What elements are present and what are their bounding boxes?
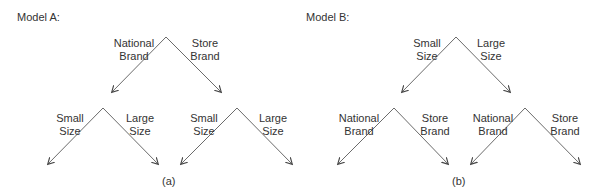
model-b-subleft-left-label: National Brand [331, 112, 387, 138]
model-b-title: Model B: [306, 11, 349, 24]
model-a-top-left-label: National Brand [106, 37, 162, 63]
model-a-top-right-label: Store Brand [185, 37, 225, 63]
model-b-top-right-label: Large Size [471, 37, 511, 63]
model-a-caption: (a) [162, 175, 175, 188]
model-b-caption: (b) [452, 175, 465, 188]
tree-diagram-lines [0, 0, 599, 196]
model-b-subright-left-label: National Brand [465, 112, 521, 138]
model-a-subleft-right-label: Large Size [120, 112, 160, 138]
model-a-subleft-left-label: Small Size [50, 112, 90, 138]
model-a-subright-left-label: Small Size [184, 112, 224, 138]
model-b-top-left-label: Small Size [407, 37, 447, 63]
model-a-title: Model A: [17, 11, 60, 24]
model-b-subright-right-label: Store Brand [545, 112, 585, 138]
model-a-subright-right-label: Large Size [253, 112, 293, 138]
model-b-subleft-right-label: Store Brand [415, 112, 455, 138]
